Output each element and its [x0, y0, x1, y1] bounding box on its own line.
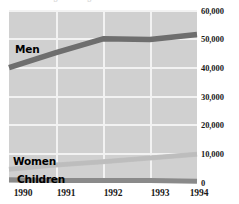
chart-title-text: Immigration figures — [34, 0, 107, 2]
y-axis-label-0: 0 — [201, 178, 205, 188]
x-axis-label-1994: 1994 — [178, 188, 220, 198]
y-axis-label-20000: 20,000 — [201, 120, 224, 130]
x-axis-label-1991: 1991 — [45, 188, 87, 198]
x-axis-label-1992: 1992 — [92, 188, 134, 198]
y-axis-label-50000: 50,000 — [201, 34, 224, 44]
y-axis-label-10000: 10,000 — [201, 149, 224, 159]
x-axis-label-1990: 1990 — [2, 188, 44, 198]
y-axis-label-60000: 60,000 — [201, 6, 224, 16]
series-label-men: Men — [15, 43, 39, 55]
series-label-children: Children — [17, 173, 65, 185]
series-label-women: Women — [13, 155, 56, 167]
y-axis-label-30000: 30,000 — [201, 92, 224, 102]
chart-figure: Immigration figures Men Women Children 6… — [0, 0, 239, 204]
x-axis-label-1993: 1993 — [139, 188, 181, 198]
y-axis-label-40000: 40,000 — [201, 63, 224, 73]
